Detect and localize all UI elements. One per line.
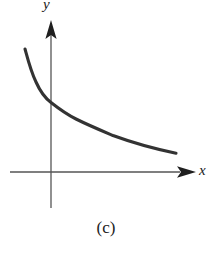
figure-container: y x (c) xyxy=(0,0,212,254)
plot-canvas xyxy=(0,0,212,254)
x-axis-label: x xyxy=(199,163,206,178)
y-axis-label: y xyxy=(43,0,50,12)
curve-path xyxy=(25,49,176,153)
figure-caption: (c) xyxy=(0,219,212,236)
